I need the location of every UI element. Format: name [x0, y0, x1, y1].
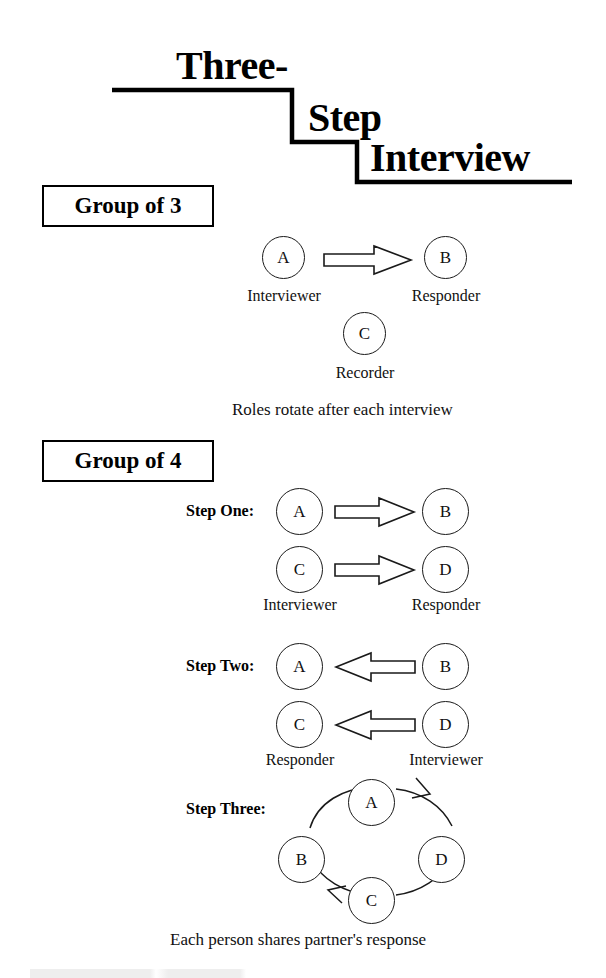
page-title-line-1: Three-: [176, 42, 288, 89]
node-d-step-three: D: [418, 836, 465, 883]
caption-each-person-shares: Each person shares partner's response: [170, 930, 426, 950]
arrow-right-step-one-row-2: [333, 554, 417, 586]
node-a-step-two: A: [276, 643, 323, 690]
step-one-label: Step One:: [186, 502, 254, 520]
node-c-step-one: C: [276, 546, 323, 593]
node-c-group3: C: [343, 312, 386, 355]
section-heading-group-of-4: Group of 4: [42, 440, 214, 482]
node-b-step-two: B: [422, 643, 469, 690]
section-heading-group-of-3: Group of 3: [42, 185, 214, 227]
section-heading-group-of-3-label: Group of 3: [75, 193, 182, 219]
page-edge-artifact: [30, 969, 330, 978]
step-two-label: Step Two:: [186, 657, 254, 675]
page-title-line-3: Interview: [370, 134, 530, 181]
node-a-step-one: A: [276, 488, 323, 535]
role-label-recorder-group3: Recorder: [313, 364, 417, 382]
node-c-step-three: C: [348, 877, 395, 924]
role-label-interviewer-group3: Interviewer: [232, 287, 336, 305]
node-a-step-three: A: [348, 779, 395, 826]
node-b-step-one: B: [422, 488, 469, 535]
arrow-left-step-two-row-2: [333, 709, 417, 741]
node-d-step-one: D: [422, 546, 469, 593]
role-label-left-step-one: Interviewer: [248, 596, 352, 614]
arrow-right-step-one-row-1: [333, 496, 417, 528]
arrow-right-group3: [322, 244, 414, 276]
role-label-left-step-two: Responder: [248, 751, 352, 769]
node-b-step-three: B: [278, 836, 325, 883]
role-label-right-step-two: Interviewer: [394, 751, 498, 769]
role-label-right-step-one: Responder: [394, 596, 498, 614]
section-heading-group-of-4-label: Group of 4: [75, 448, 182, 474]
caption-roles-rotate: Roles rotate after each interview: [232, 400, 453, 420]
node-c-step-two: C: [276, 701, 323, 748]
node-d-step-two: D: [422, 701, 469, 748]
node-a-group3: A: [262, 236, 305, 279]
title-block: Three- Step Interview: [0, 0, 606, 195]
node-b-group3: B: [424, 236, 467, 279]
arrow-left-step-two-row-1: [333, 651, 417, 683]
role-label-responder-group3: Responder: [394, 287, 498, 305]
step-three-label: Step Three:: [186, 800, 266, 818]
